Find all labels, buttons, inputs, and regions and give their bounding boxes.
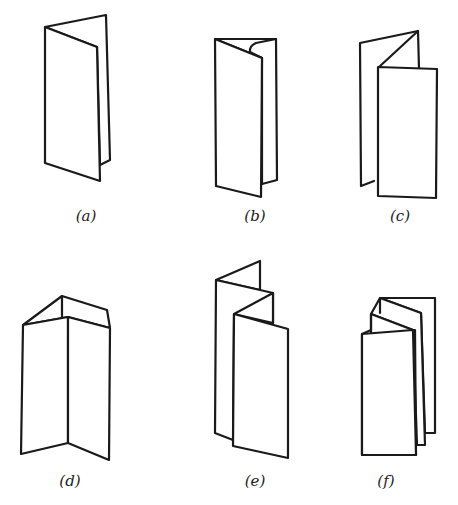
label-b: (b) bbox=[244, 207, 265, 225]
fold-f-drawing bbox=[362, 298, 435, 455]
label-c: (c) bbox=[390, 207, 410, 225]
folding-diagram bbox=[0, 0, 458, 505]
fold-a-drawing bbox=[45, 15, 110, 181]
label-d: (d) bbox=[59, 472, 80, 490]
fold-e-drawing bbox=[215, 261, 288, 458]
label-f: (f) bbox=[377, 472, 394, 490]
label-a: (a) bbox=[76, 207, 97, 225]
fold-c-drawing bbox=[360, 31, 437, 198]
fold-b-drawing bbox=[215, 39, 277, 197]
label-e: (e) bbox=[245, 472, 266, 490]
fold-d-drawing bbox=[21, 296, 110, 460]
